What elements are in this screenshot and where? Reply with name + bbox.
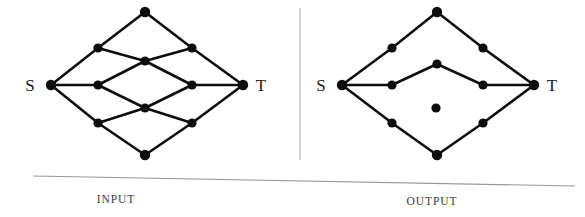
graph-node — [432, 150, 442, 160]
figure-canvas: STST INPUTOUTPUT — [0, 0, 585, 217]
graph-node — [387, 118, 396, 127]
graph-node — [432, 59, 441, 68]
panel-caption-output: OUTPUT — [407, 195, 458, 207]
graph-panel-output: ST — [316, 7, 558, 160]
graph-edge — [392, 64, 437, 85]
caption-baseline-rule — [33, 176, 575, 186]
graph-edge — [145, 85, 192, 108]
graph-edge — [145, 108, 192, 123]
graph-edge — [98, 12, 145, 48]
graph-edge — [98, 123, 145, 155]
graph-edge — [483, 85, 534, 123]
isolated-node — [431, 103, 440, 112]
graph-edge — [342, 85, 392, 123]
source-label: S — [316, 76, 325, 95]
graph-edge — [437, 12, 483, 48]
graph-edge — [145, 12, 192, 48]
graph-edge — [51, 85, 98, 123]
graph-panel-input: ST — [25, 7, 267, 160]
caption-group: INPUTOUTPUT — [97, 193, 458, 207]
graph-node — [93, 43, 102, 52]
graph-edge — [51, 48, 98, 85]
sink-node — [238, 80, 248, 90]
graph-edge — [437, 64, 483, 85]
graph-edge — [392, 123, 437, 155]
graph-edge — [145, 61, 192, 85]
graph-node — [140, 7, 150, 17]
graph-node — [93, 80, 102, 89]
graph-node — [478, 118, 487, 127]
graph-edge — [342, 48, 392, 85]
graph-edge — [98, 108, 145, 123]
graph-edge — [98, 85, 145, 108]
graph-node — [140, 56, 149, 65]
graph-node — [387, 43, 396, 52]
graph-edge — [98, 61, 145, 85]
sink-label: T — [547, 76, 558, 95]
graph-node — [187, 118, 196, 127]
graph-edge — [437, 123, 483, 155]
graph-edge — [98, 48, 145, 61]
graph-edge — [192, 85, 243, 123]
graph-node — [187, 43, 196, 52]
graph-node — [93, 118, 102, 127]
sink-label: T — [256, 76, 267, 95]
graph-node — [478, 80, 487, 89]
panel-group: STST — [25, 7, 558, 160]
source-node — [337, 80, 347, 90]
graph-node — [187, 80, 196, 89]
edge-layer — [342, 12, 534, 155]
sink-node — [529, 80, 539, 90]
graph-edge — [483, 48, 534, 85]
graph-node — [478, 43, 487, 52]
graph-node — [140, 150, 150, 160]
graph-node — [432, 7, 442, 17]
graph-edge — [145, 123, 192, 155]
graph-edge — [392, 12, 437, 48]
graph-edge — [145, 48, 192, 61]
graph-node — [140, 103, 149, 112]
node-layer — [46, 7, 248, 160]
graph-edge — [192, 48, 243, 85]
source-node — [46, 80, 56, 90]
graph-node — [387, 80, 396, 89]
edge-layer — [51, 12, 243, 155]
panel-caption-input: INPUT — [97, 193, 135, 205]
source-label: S — [25, 76, 34, 95]
node-layer — [337, 7, 539, 160]
